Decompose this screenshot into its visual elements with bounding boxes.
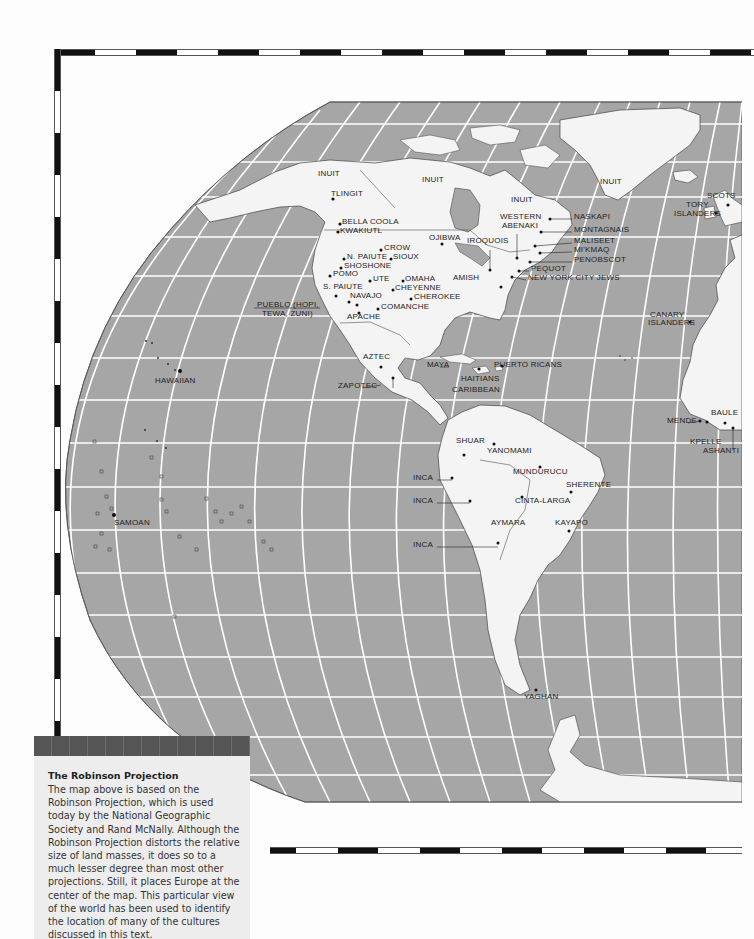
map-label-caribbean: CARIBBEAN — [452, 385, 500, 394]
map-label-tory-islanders: ISLANDERS — [674, 209, 721, 218]
map-label-sherente: SHERENTE — [566, 480, 611, 489]
map-label-ute: UTE — [373, 274, 390, 283]
map-label-inca: INCA — [413, 496, 433, 505]
map-label-aztec: AZTEC — [363, 352, 390, 361]
decorative-band — [34, 736, 250, 756]
map-label-inca: INCA — [413, 540, 433, 549]
map-label-mende: MENDE — [667, 416, 697, 425]
map-label-sioux: SIOUX — [393, 252, 419, 261]
map-label-montagnais: MONTAGNAIS — [574, 225, 629, 234]
info-panel-body: The map above is based on the Robinson P… — [48, 783, 242, 939]
map-label-inuit: INUIT — [511, 195, 533, 204]
map-label-n-paiute: N. PAIUTE — [347, 252, 387, 261]
map-label-cinta-larga: CINTA-LARGA — [515, 496, 570, 505]
robinson-projection-info-panel: The Robinson Projection The map above is… — [34, 736, 250, 939]
map-label-mikmaq: MI'KMAQ — [574, 245, 609, 254]
map-label-ashanti: ASHANTI — [703, 446, 739, 455]
map-label-omaha: OMAHA — [405, 274, 435, 283]
map-label-navajo: NAVAJO — [350, 291, 382, 300]
map-label-puerto-ricans: PUERTO RICANS — [494, 360, 562, 369]
map-label-bella-coola: BELLA COOLA — [342, 217, 399, 226]
map-label-yanomami: YANOMAMI — [487, 446, 532, 455]
map-label-kwakiutl: KWAKIUTL — [340, 226, 382, 235]
map-label-shuar: SHUAR — [456, 436, 485, 445]
map-label-maliseet: MALISEET — [574, 236, 615, 245]
map-label-canary-islanders: ISLANDERS — [648, 318, 695, 327]
map-label-inuit: INUIT — [422, 175, 444, 184]
map-label-aymara: AYMARA — [491, 518, 525, 527]
map-label-pequot: PEQUOT — [531, 264, 566, 273]
map-label-inuit: INUIT — [600, 177, 622, 186]
map-label-naskapi: NASKAPI — [574, 212, 610, 221]
map-label-western-abenaki: ABENAKI — [502, 221, 538, 230]
map-label-western-abenaki: WESTERN — [500, 212, 541, 221]
map-label-hawaiian: HAWAIIAN — [155, 376, 196, 385]
map-label-tlingit: TLINGIT — [331, 189, 363, 198]
map-label-yaghan: YAGHAN — [524, 692, 558, 701]
map-label-iroquois: IROQUOIS — [467, 236, 509, 245]
map-label-pueblo: PUEBLO (HOPI, — [257, 300, 319, 309]
map-label-baule: BAULE — [711, 408, 738, 417]
map-label-haitians: HAITIANS — [461, 374, 500, 383]
map-label-samoan: SAMOAN — [114, 518, 150, 527]
map-label-comanche: COMANCHE — [381, 302, 429, 311]
map-label-new-york-city-jews: NEW YORK CITY JEWS — [528, 273, 620, 282]
map-label-crow: CROW — [384, 243, 410, 252]
map-label-s-paiute: S. PAIUTE — [323, 282, 363, 291]
info-panel-title: The Robinson Projection — [48, 770, 250, 781]
map-label-inca: INCA — [413, 473, 433, 482]
map-label-inuit: INUIT — [318, 169, 340, 178]
map-label-cherokee: CHEROKEE — [414, 292, 461, 301]
map-label-mundurucu: MUNDURUCU — [513, 467, 568, 476]
map-label-apache: APACHE — [347, 312, 381, 321]
map-label-kpelle: KPELLE — [690, 437, 721, 446]
map-label-penobscot: PENOBSCOT — [574, 255, 626, 264]
map-label-tory-islanders: TORY — [686, 200, 709, 209]
map-label-kayapo: KAYAPO — [555, 518, 588, 527]
map-label-pueblo: TEWA, ZUNI) — [262, 309, 313, 318]
map-label-scots: SCOTS — [707, 191, 736, 200]
map-label-ojibwa: OJIBWA — [429, 233, 461, 242]
map-label-cheyenne: CHEYENNE — [395, 283, 441, 292]
map-label-zapotec: ZAPOTEC — [338, 381, 377, 390]
map-label-amish: AMISH — [453, 273, 479, 282]
map-label-pomo: POMO — [333, 269, 358, 278]
map-label-maya: MAYA — [427, 360, 449, 369]
